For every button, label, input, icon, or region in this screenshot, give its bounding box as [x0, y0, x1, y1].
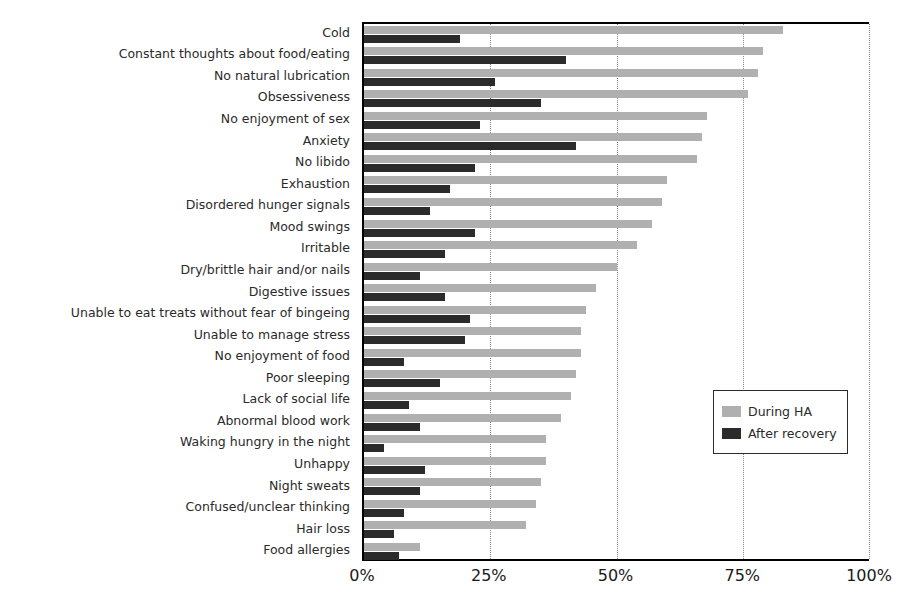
- y-axis-label: Obsessiveness: [258, 90, 350, 103]
- bar-during-ha: [364, 478, 541, 486]
- bar-during-ha: [364, 263, 617, 271]
- bar-during-ha: [364, 543, 420, 551]
- bar-during-ha: [364, 176, 667, 184]
- bar-during-ha: [364, 112, 707, 120]
- y-axis-label: Exhaustion: [281, 177, 350, 190]
- y-axis-label: Anxiety: [303, 134, 350, 147]
- y-axis-label: No natural lubrication: [214, 69, 350, 82]
- y-axis-labels: ColdConstant thoughts about food/eatingN…: [0, 22, 356, 561]
- bar-row: [364, 327, 869, 349]
- bar-during-ha: [364, 392, 571, 400]
- bar-row: [364, 284, 869, 306]
- bar-during-ha: [364, 133, 702, 141]
- bar-after-recovery: [364, 487, 420, 495]
- bar-after-recovery: [364, 336, 465, 344]
- y-axis-label: Unhappy: [294, 457, 350, 470]
- bar-after-recovery: [364, 250, 445, 258]
- bar-during-ha: [364, 241, 637, 249]
- y-axis-label: Night sweats: [269, 479, 350, 492]
- y-axis-label: Cold: [322, 26, 350, 39]
- legend-entry: After recovery: [722, 422, 839, 444]
- bar-after-recovery: [364, 207, 430, 215]
- bar-after-recovery: [364, 121, 480, 129]
- bar-during-ha: [364, 90, 748, 98]
- legend-swatch-icon: [722, 428, 741, 439]
- bar-after-recovery: [364, 272, 420, 280]
- y-axis-label: Mood swings: [269, 220, 350, 233]
- y-axis-label: No libido: [295, 155, 350, 168]
- bar-after-recovery: [364, 423, 420, 431]
- bar-after-recovery: [364, 142, 576, 150]
- bar-after-recovery: [364, 185, 450, 193]
- bar-row: [364, 198, 869, 220]
- y-axis-label: Unable to manage stress: [194, 328, 350, 341]
- bar-during-ha: [364, 349, 581, 357]
- x-tick-label: 25%: [471, 566, 507, 585]
- bar-after-recovery: [364, 78, 495, 86]
- bar-row: [364, 543, 869, 565]
- bar-during-ha: [364, 198, 662, 206]
- y-axis-label: No enjoyment of food: [215, 349, 350, 362]
- bar-during-ha: [364, 457, 546, 465]
- bar-after-recovery: [364, 315, 470, 323]
- x-tick-label: 50%: [598, 566, 634, 585]
- legend-entry: During HA: [722, 400, 839, 422]
- y-axis-label: Irritable: [301, 241, 350, 254]
- bar-after-recovery: [364, 99, 541, 107]
- bar-during-ha: [364, 435, 546, 443]
- bar-row: [364, 478, 869, 500]
- x-tick-label: 0%: [349, 566, 374, 585]
- y-axis-label: Dry/brittle hair and/or nails: [180, 263, 350, 276]
- y-axis-label: Lack of social life: [243, 392, 350, 405]
- bar-row: [364, 500, 869, 522]
- bar-after-recovery: [364, 293, 445, 301]
- bar-after-recovery: [364, 444, 384, 452]
- bar-after-recovery: [364, 229, 475, 237]
- y-axis-label: Waking hungry in the night: [180, 435, 350, 448]
- gridline-100: [869, 24, 870, 559]
- bar-during-ha: [364, 500, 536, 508]
- bar-row: [364, 69, 869, 91]
- y-axis-label: Digestive issues: [249, 285, 350, 298]
- bar-chart: ColdConstant thoughts about food/eatingN…: [0, 0, 908, 601]
- bar-row: [364, 263, 869, 285]
- bar-during-ha: [364, 69, 758, 77]
- x-axis-tick-labels: 0%25%50%75%100%: [362, 566, 869, 594]
- y-axis-label: Abnormal blood work: [217, 414, 350, 427]
- y-axis-label: Unable to eat treats without fear of bin…: [71, 306, 350, 319]
- bar-row: [364, 241, 869, 263]
- bar-row: [364, 370, 869, 392]
- bar-after-recovery: [364, 530, 394, 538]
- y-axis-label: Confused/unclear thinking: [186, 500, 350, 513]
- y-axis-label: Hair loss: [296, 522, 350, 535]
- bar-row: [364, 133, 869, 155]
- bar-row: [364, 457, 869, 479]
- bar-after-recovery: [364, 466, 425, 474]
- bar-during-ha: [364, 47, 763, 55]
- bar-row: [364, 349, 869, 371]
- bar-after-recovery: [364, 164, 475, 172]
- bar-after-recovery: [364, 379, 440, 387]
- bar-row: [364, 47, 869, 69]
- bar-after-recovery: [364, 358, 404, 366]
- bar-after-recovery: [364, 35, 460, 43]
- bar-during-ha: [364, 26, 783, 34]
- bar-during-ha: [364, 306, 586, 314]
- bar-row: [364, 112, 869, 134]
- legend-label: During HA: [748, 404, 812, 419]
- y-axis-label: No enjoyment of sex: [221, 112, 350, 125]
- y-axis-label: Disordered hunger signals: [186, 198, 350, 211]
- bar-after-recovery: [364, 56, 566, 64]
- bar-during-ha: [364, 521, 526, 529]
- bar-during-ha: [364, 284, 596, 292]
- bar-row: [364, 26, 869, 48]
- y-axis-label: Food allergies: [263, 543, 350, 556]
- bar-row: [364, 90, 869, 112]
- bar-rows: [364, 24, 869, 559]
- bar-during-ha: [364, 155, 697, 163]
- bar-after-recovery: [364, 509, 404, 517]
- bar-after-recovery: [364, 552, 399, 560]
- chart-legend: During HAAfter recovery: [713, 390, 848, 454]
- bar-during-ha: [364, 414, 561, 422]
- y-axis-label: Constant thoughts about food/eating: [119, 47, 350, 60]
